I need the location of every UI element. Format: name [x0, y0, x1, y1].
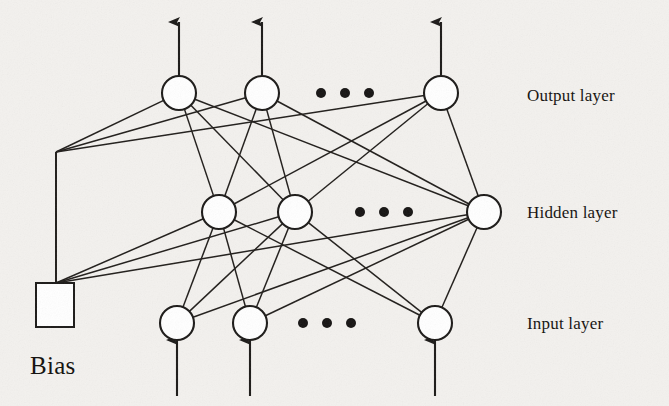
bias-box-rect	[36, 283, 74, 327]
edges-hidden-to-output	[184, 99, 478, 206]
edge-h3-o2	[277, 101, 469, 204]
bias-box	[36, 283, 74, 327]
edge-h3-o1	[195, 99, 468, 206]
input-ellipsis-dot-2	[322, 318, 332, 328]
edge-bias-h2	[56, 217, 279, 283]
output-ellipsis-dot-3	[364, 88, 374, 98]
input-ellipsis-dot-3	[346, 318, 356, 328]
output-node-o1	[162, 76, 196, 110]
hidden-ellipsis-dot-2	[379, 207, 389, 217]
nodes-hidden	[202, 195, 501, 229]
edge-bias-o3	[56, 96, 424, 152]
edge-i1-h1	[183, 228, 213, 307]
ellipsis-hidden	[355, 207, 413, 217]
bias-stem	[55, 152, 62, 283]
hidden-node-h1	[202, 195, 236, 229]
output-ellipsis-dot-1	[316, 88, 326, 98]
nodes-output	[162, 76, 458, 110]
hidden-layer-label: Hidden layer	[527, 203, 618, 223]
edge-i3-h3	[442, 228, 477, 308]
edges-bias-to-output	[56, 96, 424, 152]
edge-h1-o1	[184, 109, 213, 196]
input-arrows	[177, 340, 435, 396]
ellipsis-output	[316, 88, 374, 98]
output-node-o3	[424, 76, 458, 110]
edge-h3-o3	[447, 109, 478, 196]
input-node-i1	[160, 306, 194, 340]
edge-i3-h2	[308, 223, 421, 313]
input-layer-label: Input layer	[527, 314, 603, 334]
hidden-node-h3	[467, 195, 501, 229]
hidden-node-h2	[278, 195, 312, 229]
input-ellipsis-dot-1	[298, 318, 308, 328]
input-node-i3	[418, 306, 452, 340]
hidden-ellipsis-dot-1	[355, 207, 365, 217]
output-ellipsis-dot-2	[340, 88, 350, 98]
output-arrows	[179, 22, 441, 76]
edge-bias-h1	[56, 219, 203, 283]
ellipsis-input	[298, 318, 356, 328]
edge-i2-h3	[265, 219, 468, 315]
edge-h2-o3	[308, 104, 428, 202]
hidden-ellipsis-dot-3	[403, 207, 413, 217]
neural-network-diagram: Output layer Hidden layer Input layer Bi…	[0, 0, 669, 406]
output-node-o2	[245, 76, 279, 110]
edge-i2-h1	[224, 228, 246, 306]
edge-h2-o2	[267, 109, 291, 195]
output-layer-label: Output layer	[527, 86, 615, 106]
input-node-i2	[233, 306, 267, 340]
edge-i3-h1	[234, 220, 420, 315]
bias-label: Bias	[30, 352, 76, 380]
